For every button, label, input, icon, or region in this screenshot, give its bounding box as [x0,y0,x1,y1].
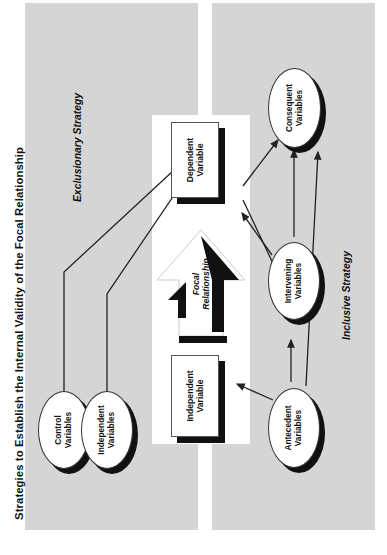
node-dependent-variable-label: DependentVariable [185,138,206,182]
node-independent-variable-label: IndependentVariable [185,370,206,421]
node-independent-variables-label: IndependentVariables [97,405,116,454]
node-dependent-variable[interactable]: DependentVariable [171,122,219,198]
inclusive-strategy-label: Inclusive Strategy [341,236,352,356]
figure-title: Strategies to Establish the Internal Val… [13,10,25,520]
node-independent-variables[interactable]: IndependentVariables [81,391,133,469]
focal-relationship-label: FocalRelationship [191,258,212,310]
exclusionary-strategy-label: Exclusionary Strategy [72,88,83,208]
node-antecedent-variables-label: AntecedentVariables [284,405,303,450]
node-independent-variable[interactable]: IndependentVariable [171,355,219,437]
focal-relationship-group: FocalRelationship [157,228,245,340]
node-control-variables-label: ControlVariables [54,412,73,448]
node-antecedent-variables[interactable]: AntecedentVariables [268,388,320,468]
node-consequent-variables-label: ConsequentVariables [285,84,304,132]
node-consequent-variables[interactable]: ConsequentVariables [268,68,321,148]
figure-canvas: FocalRelationship DependentVariable Inde… [0,0,387,555]
node-intervening-variables[interactable]: InterveningVariables [268,242,320,320]
node-intervening-variables-label: InterveningVariables [284,259,303,304]
